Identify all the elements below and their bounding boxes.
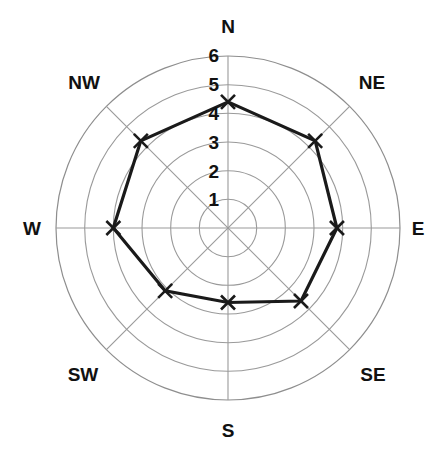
grid-spokes xyxy=(56,56,400,400)
polar-chart-canvas: 6 5 4 3 2 1 N NE E SE S SW W NW xyxy=(0,0,437,453)
direction-label-nw: NW xyxy=(68,72,100,93)
direction-label-sw: SW xyxy=(68,364,99,385)
series-markers xyxy=(106,95,344,310)
radial-tick-4: 4 xyxy=(208,103,219,124)
direction-label-n: N xyxy=(221,16,235,37)
series-group xyxy=(113,102,337,303)
polar-chart: 6 5 4 3 2 1 N NE E SE S SW W NW xyxy=(0,0,437,453)
radial-tick-labels: 6 5 4 3 2 1 xyxy=(208,45,219,210)
series-polygon xyxy=(113,102,337,303)
direction-label-se: SE xyxy=(360,364,385,385)
direction-label-e: E xyxy=(412,218,425,239)
direction-label-s: S xyxy=(222,420,235,441)
direction-label-w: W xyxy=(23,218,41,239)
radial-tick-6: 6 xyxy=(208,45,219,66)
radial-tick-1: 1 xyxy=(208,189,219,210)
radial-tick-2: 2 xyxy=(208,161,219,182)
direction-label-ne: NE xyxy=(359,72,385,93)
radial-tick-3: 3 xyxy=(208,132,219,153)
radial-tick-5: 5 xyxy=(208,74,219,95)
